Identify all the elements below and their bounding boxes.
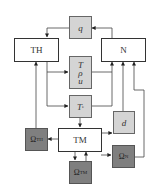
omega-n-subscript: N [125,154,129,159]
th-label: TH [31,45,43,55]
omega-tm-node: ΩTM [69,161,92,184]
d-label: d [122,118,127,128]
te-node: Te [69,95,92,118]
omega-th-node: ΩTH [25,128,48,151]
tm-label: TM [73,135,87,145]
omega-tm-subscript: TM [80,170,88,175]
n-node: N [101,38,146,62]
state-label-u: u [78,77,83,85]
te-subscript: e [82,104,84,109]
omega-n-node: ΩN [112,145,135,168]
q-node: q [69,16,92,39]
state-node: T ρ u [69,56,92,89]
d-node: d [113,111,135,134]
q-label: q [78,23,83,33]
n-label: N [120,45,127,55]
omega-th-subscript: TH [36,137,43,142]
th-node: TH [14,38,59,62]
tm-node: TM [58,128,102,152]
